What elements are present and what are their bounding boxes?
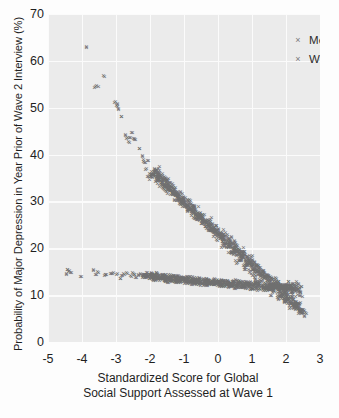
scatter-marker-women — [198, 211, 203, 216]
scatter-marker-men — [78, 275, 83, 280]
scatter-marker-men — [95, 270, 100, 275]
y-axis-label: Probability of Major Depression in Year … — [12, 14, 24, 354]
scatter-marker-women — [229, 250, 234, 255]
scatter-marker-men — [291, 282, 296, 287]
x-tick-label: -5 — [33, 352, 63, 366]
legend-item-men: × Men — [291, 30, 320, 49]
y-tick-label: 40 — [4, 148, 44, 162]
x-axis-label: Standardized Score for Global Social Sup… — [28, 371, 328, 401]
y-tick-label: 50 — [4, 101, 44, 115]
scatter-marker-women — [268, 294, 273, 299]
x-tick-label: -3 — [101, 352, 131, 366]
x-axis-label-line1: Standardized Score for Global — [28, 371, 328, 386]
x-tick-label: -4 — [67, 352, 97, 366]
legend-item-women: × Women — [291, 49, 320, 68]
scatter-marker-women — [287, 307, 292, 312]
scatter-marker-women — [101, 74, 106, 79]
scatter-marker-women — [84, 45, 89, 50]
x-tick-label: -2 — [135, 352, 165, 366]
legend-label-men: Men — [309, 34, 320, 46]
scatter-marker-women — [288, 302, 293, 307]
legend: × Men × Women — [291, 30, 320, 68]
y-tick-label: 20 — [4, 241, 44, 255]
scatter-marker-women — [146, 159, 151, 164]
plot-area: × Men × Women — [48, 14, 320, 342]
scatter-marker-women — [233, 259, 238, 264]
legend-marker-men-icon: × — [291, 35, 305, 45]
scatter-marker-women — [206, 227, 211, 232]
scatter-marker-women — [268, 288, 273, 293]
scatter-marker-women — [223, 242, 228, 247]
y-tick-label: 10 — [4, 288, 44, 302]
x-tick-label: 3 — [305, 352, 335, 366]
scatter-marker-men — [69, 271, 74, 276]
scatter-marker-women — [156, 178, 161, 183]
x-tick-label: 1 — [237, 352, 267, 366]
y-tick-label: 60 — [4, 54, 44, 68]
legend-marker-women-icon: × — [291, 54, 305, 64]
y-tick-label: 30 — [4, 194, 44, 208]
x-axis-ticks: -5-4-3-2-10123 — [0, 352, 339, 370]
scatter-marker-women — [167, 181, 172, 186]
x-tick-label: 2 — [271, 352, 301, 366]
scatter-points — [48, 14, 320, 342]
x-tick-label: 0 — [203, 352, 233, 366]
scatter-marker-women — [96, 85, 101, 90]
scatter-marker-women — [119, 115, 124, 120]
x-tick-label: -1 — [169, 352, 199, 366]
x-axis-label-line2: Social Support Assessed at Wave 1 — [28, 386, 328, 401]
scatter-marker-women — [132, 137, 137, 142]
chart-figure: 010203040506070 Probability of Major Dep… — [0, 0, 339, 418]
y-tick-label: 70 — [4, 7, 44, 21]
scatter-marker-women — [297, 310, 302, 315]
legend-label-women: Women — [309, 53, 320, 65]
y-tick-label: 0 — [4, 335, 44, 349]
